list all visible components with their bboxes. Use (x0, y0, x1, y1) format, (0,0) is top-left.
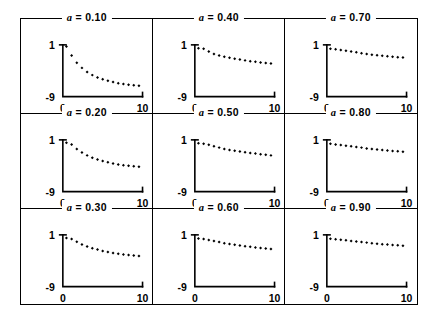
y-tick-label-top: 1 (49, 230, 55, 241)
data-point (223, 147, 226, 150)
plot-area: 1-9010 (21, 209, 153, 304)
plot-panel: a = 0.901-9010 (284, 208, 418, 305)
data-point (96, 158, 99, 161)
data-series (329, 237, 405, 247)
data-point (132, 84, 135, 87)
data-point (238, 244, 241, 247)
plot-area: 1-9010 (285, 114, 417, 209)
data-point (360, 241, 363, 244)
x-tick-label-right: 10 (269, 198, 281, 209)
data-point (117, 82, 120, 85)
data-point (329, 47, 332, 50)
data-point (91, 74, 94, 77)
data-point (269, 154, 272, 157)
data-point (218, 146, 221, 149)
data-point (249, 245, 252, 248)
data-point (75, 61, 78, 64)
data-point (218, 54, 221, 57)
y-tick-label-bottom: -9 (46, 187, 55, 198)
data-point (137, 84, 140, 87)
data-series (197, 47, 273, 65)
y-tick-label-bottom: -9 (178, 187, 187, 198)
y-tick-label-bottom: -9 (310, 92, 319, 103)
data-point (264, 247, 267, 250)
data-series (65, 236, 141, 257)
data-point (344, 49, 347, 52)
data-point (391, 243, 394, 246)
data-point (122, 164, 125, 167)
data-point (223, 55, 226, 58)
data-point (218, 241, 221, 244)
data-point (264, 61, 267, 64)
y-tick-label-top: 1 (49, 135, 55, 146)
data-point (228, 56, 231, 59)
data-point (122, 82, 125, 85)
data-point (233, 243, 236, 246)
data-point (137, 165, 140, 168)
data-point (127, 83, 130, 86)
data-point (106, 161, 109, 164)
data-point (80, 243, 83, 246)
data-point (344, 239, 347, 242)
data-point (91, 156, 94, 159)
data-point (269, 62, 272, 65)
data-point (132, 254, 135, 257)
y-tick-label-top: 1 (313, 40, 319, 51)
data-point (370, 53, 373, 56)
data-point (386, 149, 389, 152)
data-point (101, 249, 104, 252)
y-tick-label-top: 1 (313, 135, 319, 146)
plot-panel: a = 0.101-9010 (20, 18, 154, 115)
data-point (202, 238, 205, 241)
data-point (106, 79, 109, 82)
data-point (117, 252, 120, 255)
data-point (122, 253, 125, 256)
data-point (212, 240, 215, 243)
data-point (207, 143, 210, 146)
data-point (360, 146, 363, 149)
data-series (197, 142, 273, 157)
plot-panel: a = 0.801-9010 (284, 113, 418, 210)
data-point (244, 59, 247, 62)
data-point (112, 81, 115, 84)
data-point (212, 145, 215, 148)
data-point (396, 244, 399, 247)
x-tick-label-left: 0 (60, 293, 66, 304)
x-tick-label-left: 0 (324, 293, 330, 304)
data-point (112, 162, 115, 165)
x-tick-label-left: 0 (192, 293, 198, 304)
data-point (75, 240, 78, 243)
data-point (376, 242, 379, 245)
data-point (70, 238, 73, 241)
data-point (96, 248, 99, 251)
data-point (86, 245, 89, 248)
data-point (212, 52, 215, 55)
y-tick-label-bottom: -9 (178, 92, 187, 103)
data-point (396, 150, 399, 153)
y-tick-label-bottom: -9 (310, 187, 319, 198)
data-point (401, 56, 404, 59)
data-point (344, 144, 347, 147)
data-point (391, 149, 394, 152)
data-point (254, 246, 257, 249)
data-point (350, 50, 353, 53)
data-point (202, 47, 205, 50)
figure-trellis-plot: a = 0.101-9010a = 0.401-9010a = 0.701-90… (0, 0, 435, 327)
data-point (334, 143, 337, 146)
data-point (65, 236, 68, 239)
x-tick-label-right: 10 (401, 293, 413, 304)
data-point (355, 146, 358, 149)
plot-panel: a = 0.501-9010 (152, 113, 286, 210)
y-tick-label-top: 1 (181, 230, 187, 241)
plot-panel: a = 0.601-9010 (152, 208, 286, 305)
data-point (233, 57, 236, 60)
y-tick-label-bottom: -9 (310, 282, 319, 293)
x-tick-label-right: 10 (269, 103, 281, 114)
y-tick-label-bottom: -9 (178, 282, 187, 293)
data-point (238, 150, 241, 153)
data-point (365, 147, 368, 150)
data-point (365, 52, 368, 55)
data-point (339, 238, 342, 241)
data-series (65, 141, 141, 168)
plot-area: 1-9010 (153, 19, 285, 114)
